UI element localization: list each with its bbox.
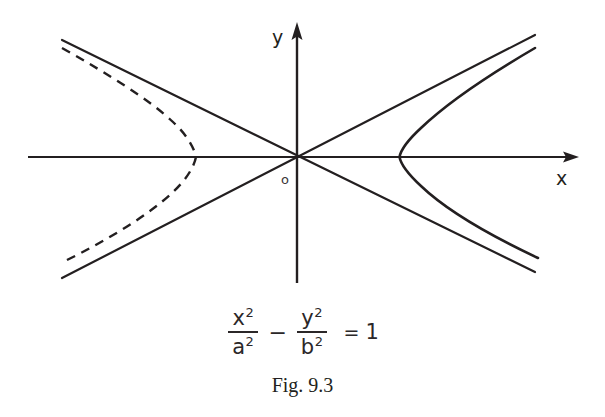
y-axis-label: y bbox=[272, 26, 283, 48]
denominator-variable: b bbox=[301, 335, 315, 359]
denominator-variable: a bbox=[232, 335, 245, 359]
equation-row: x2 a2 − y2 b2 = 1 bbox=[226, 306, 379, 358]
equation-right-hand-side: 1 bbox=[365, 322, 378, 343]
fraction-bar bbox=[297, 331, 328, 333]
fraction-numerator: y2 bbox=[297, 306, 327, 329]
equals-sign: = bbox=[343, 323, 359, 342]
fraction-numerator: x2 bbox=[228, 306, 258, 329]
denominator-exponent: 2 bbox=[315, 334, 324, 349]
numerator-variable: x bbox=[232, 306, 245, 330]
figure-container: y x o x2 a2 − y2 b2 = 1 Fig. 9.3 bbox=[0, 0, 605, 417]
denominator-exponent: 2 bbox=[246, 334, 255, 349]
numerator-variable: y bbox=[301, 306, 314, 330]
fraction-denominator: b2 bbox=[297, 335, 328, 358]
fraction-denominator: a2 bbox=[228, 335, 258, 358]
fraction-bar bbox=[228, 331, 258, 333]
hyperbola-left-branch-dashed bbox=[62, 48, 196, 262]
fraction-x-over-a: x2 a2 bbox=[228, 306, 258, 358]
figure-equation: x2 a2 − y2 b2 = 1 bbox=[0, 306, 605, 358]
numerator-exponent: 2 bbox=[245, 305, 254, 320]
minus-operator: − bbox=[268, 322, 286, 344]
hyperbola-right-branch bbox=[400, 48, 539, 258]
fraction-y-over-b: y2 b2 bbox=[297, 306, 328, 358]
figure-caption: Fig. 9.3 bbox=[0, 374, 605, 397]
origin-label: o bbox=[281, 172, 289, 187]
x-axis-label: x bbox=[556, 167, 567, 189]
numerator-exponent: 2 bbox=[314, 305, 323, 320]
